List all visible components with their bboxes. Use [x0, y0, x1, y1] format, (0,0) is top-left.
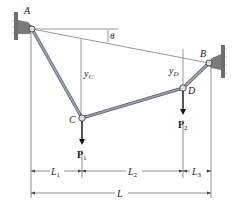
- label-c: C: [69, 114, 76, 125]
- label-yd: yD: [168, 65, 179, 78]
- label-a: A: [23, 5, 31, 16]
- pin-b-icon: [206, 60, 212, 66]
- label-yc: yC: [83, 68, 93, 81]
- ring-c-icon: [79, 115, 85, 121]
- label-b: B: [200, 48, 206, 59]
- label-l2: L2: [127, 166, 138, 179]
- load-arrow-p1-icon: [79, 121, 85, 145]
- chord-line-ab: [32, 29, 209, 63]
- label-theta: θ: [110, 31, 115, 41]
- label-d: D: [187, 85, 196, 96]
- label-l: L: [116, 188, 123, 199]
- ring-d-icon: [180, 85, 186, 91]
- label-l1: L1: [50, 166, 61, 179]
- cable-diagram: A B C D θ yC yD P1 P2 L1 L2 L3 L: [0, 0, 238, 209]
- label-l3: L3: [191, 166, 202, 179]
- pin-a-icon: [29, 26, 35, 32]
- load-arrow-p2-icon: [180, 91, 186, 115]
